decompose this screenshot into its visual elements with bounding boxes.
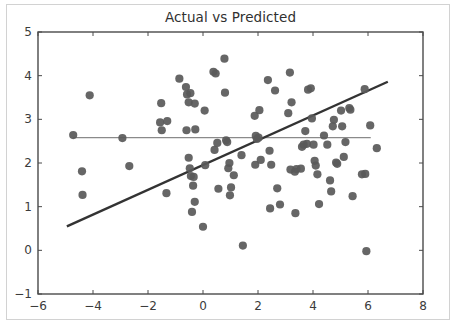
x-tick-label: −2 — [139, 299, 157, 313]
scatter-point — [330, 116, 338, 124]
scatter-point — [361, 170, 369, 178]
scatter-point — [313, 170, 321, 178]
x-tick-label: 2 — [254, 299, 262, 313]
scatter-point — [191, 100, 199, 108]
x-tick-label: 6 — [364, 299, 372, 313]
scatter-plot-area — [0, 0, 458, 328]
scatter-point — [291, 209, 299, 217]
scatter-point — [201, 161, 209, 169]
scatter-point — [312, 162, 320, 170]
scatter-point — [190, 173, 198, 181]
scatter-point — [287, 98, 295, 106]
y-tick-label: 3 — [6, 112, 32, 126]
scatter-point — [323, 141, 331, 149]
scatter-point — [349, 192, 357, 200]
scatter-point — [271, 86, 279, 94]
scatter-point — [156, 118, 164, 126]
scatter-point — [309, 141, 317, 149]
scatter-point — [333, 160, 341, 168]
scatter-point — [212, 69, 220, 77]
scatter-point — [341, 138, 349, 146]
scatter-point — [308, 114, 316, 122]
scatter-point — [265, 147, 273, 155]
y-tick-label: −1 — [6, 287, 32, 301]
scatter-point — [366, 121, 374, 129]
scatter-point — [78, 167, 86, 175]
scatter-point — [221, 89, 229, 97]
scatter-point — [276, 200, 284, 208]
scatter-point — [225, 159, 233, 167]
scatter-point — [327, 187, 335, 195]
scatter-point — [337, 107, 345, 115]
scatter-point — [320, 131, 328, 139]
scatter-point — [264, 76, 272, 84]
scatter-point — [230, 171, 238, 179]
scatter-point — [340, 153, 348, 161]
x-tick-label: −4 — [84, 299, 102, 313]
scatter-point — [239, 241, 247, 249]
scatter-point — [326, 176, 334, 184]
scatter-point — [257, 156, 265, 164]
scatter-point — [199, 223, 207, 231]
scatter-point — [286, 69, 294, 77]
x-tick-label: −6 — [29, 299, 47, 313]
scatter-point — [362, 247, 370, 255]
scatter-point — [373, 144, 381, 152]
figure-canvas: Actual vs Predicted −6−4−202468−1012345 — [0, 0, 458, 328]
scatter-point — [266, 204, 274, 212]
scatter-point — [254, 134, 262, 142]
scatter-point — [346, 106, 354, 114]
scatter-point — [191, 198, 199, 206]
scatter-point — [188, 208, 196, 216]
scatter-point — [163, 117, 171, 125]
scatter-point — [227, 183, 235, 191]
scatter-point — [315, 200, 323, 208]
scatter-point — [191, 125, 199, 133]
scatter-point — [223, 138, 231, 146]
x-tick-label: 8 — [419, 299, 427, 313]
scatter-point — [189, 182, 197, 190]
scatter-point — [297, 165, 305, 173]
x-tick-label: 0 — [199, 299, 207, 313]
scatter-point — [201, 107, 209, 115]
scatter-point — [69, 131, 77, 139]
y-tick-label: 5 — [6, 25, 32, 39]
y-tick-label: 4 — [6, 69, 32, 83]
scatter-point — [162, 189, 170, 197]
scatter-point — [186, 89, 194, 97]
y-tick-label: 2 — [6, 156, 32, 170]
scatter-point — [210, 146, 218, 154]
scatter-point — [125, 162, 133, 170]
scatter-point — [284, 109, 292, 117]
scatter-point — [118, 134, 126, 142]
scatter-point — [361, 85, 369, 93]
scatter-point — [267, 161, 275, 169]
regression-line — [67, 82, 388, 227]
y-tick-label: 1 — [6, 200, 32, 214]
scatter-point — [185, 154, 193, 162]
scatter-point — [338, 122, 346, 130]
scatter-point — [307, 84, 315, 92]
scatter-point — [237, 151, 245, 159]
scatter-point — [186, 164, 194, 172]
scatter-point — [220, 55, 228, 63]
scatter-point — [78, 191, 86, 199]
scatter-point — [86, 91, 94, 99]
y-tick-label: 0 — [6, 243, 32, 257]
scatter-point — [214, 185, 222, 193]
scatter-point — [157, 99, 165, 107]
scatter-point — [255, 106, 263, 114]
scatter-point — [273, 184, 281, 192]
scatter-point — [226, 191, 234, 199]
scatter-point — [301, 127, 309, 135]
scatter-point — [213, 139, 221, 147]
scatter-point — [175, 75, 183, 83]
scatter-point — [158, 126, 166, 134]
x-tick-label: 4 — [309, 299, 317, 313]
scatter-point — [182, 126, 190, 134]
